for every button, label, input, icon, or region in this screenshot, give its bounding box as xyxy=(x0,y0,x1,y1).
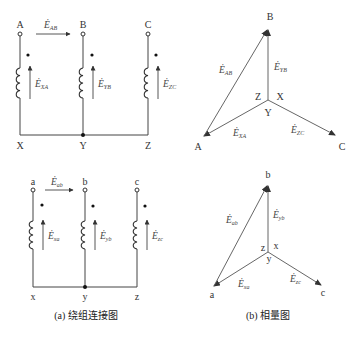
terminal-label-b-upper: B xyxy=(80,19,87,30)
emf-label-line: Ėab xyxy=(50,176,63,188)
terminal-label-c-lower: c xyxy=(135,176,140,187)
terminal-b xyxy=(81,32,85,36)
emf-label-line: ĖAB xyxy=(43,19,57,31)
vertex-label-left: A xyxy=(194,141,202,152)
polarity-dot xyxy=(26,53,29,56)
emf-label-zc: Ėzc xyxy=(289,273,301,285)
polarity-dot xyxy=(91,204,94,207)
polarity-dot xyxy=(40,203,43,206)
center-label-right: x xyxy=(274,240,279,251)
emf-label-phase-b: ĖYB xyxy=(97,78,111,90)
terminal-c xyxy=(146,32,150,36)
terminal-a xyxy=(31,188,35,192)
emf-label-ab: ĖAB xyxy=(218,64,232,76)
emf-label-phase-c: ĖZC xyxy=(162,78,177,90)
terminal-c xyxy=(135,188,139,192)
caption-phasor-diagram: (b) 相量图 xyxy=(246,309,290,322)
terminal-label-c-upper: C xyxy=(145,19,152,30)
neutral-junction-dot xyxy=(81,133,85,137)
caption-winding-connection: (a) 绕组连接图 xyxy=(54,309,118,322)
terminal-label-a-lower: a xyxy=(31,176,36,187)
neutral-label-y-upper: Y xyxy=(79,140,86,151)
vertex-label-top: B xyxy=(267,11,274,22)
center-label-left: z xyxy=(261,242,266,253)
neutral-junction-dot xyxy=(83,285,87,289)
coil-icon xyxy=(16,68,20,98)
vertex-label-right: c xyxy=(321,287,326,298)
vertex-label-left: a xyxy=(210,289,215,300)
hv-phasor-diagram: B A C Z X Y ĖAB ĖYB ĖXA ĖZC xyxy=(194,11,345,152)
polarity-dot xyxy=(143,204,146,207)
center-label-below: Y xyxy=(264,107,271,118)
terminal-a xyxy=(18,32,22,36)
emf-label-xa: ĖXA xyxy=(232,127,246,139)
neutral-label-y-lower: y xyxy=(83,291,88,302)
polarity-dot xyxy=(90,53,93,56)
neutral-label-z-lower: z xyxy=(135,291,140,302)
coil-icon xyxy=(29,221,33,249)
coil-icon xyxy=(144,68,148,98)
center-label-below: y xyxy=(267,253,272,264)
vertex-label-right: C xyxy=(339,141,346,152)
emf-label-phase-c: Ėzc xyxy=(151,230,163,242)
coil-icon xyxy=(79,68,83,98)
phasor-ab-arrow-icon xyxy=(204,30,267,136)
vertex-label-top: b xyxy=(266,169,271,180)
emf-label-yb: Ėyb xyxy=(272,209,284,221)
neutral-label-z-upper: Z xyxy=(145,140,151,151)
transformer-yy-connection-diagram: A B C ĖAB ĖXA ĖYB ĖZC xyxy=(0,0,358,338)
center-label-left: Z xyxy=(255,91,261,102)
neutral-label-x-upper: X xyxy=(16,140,24,151)
emf-label-phase-a: ĖXA xyxy=(34,78,48,90)
polarity-dot xyxy=(154,53,157,56)
terminal-label-b-lower: b xyxy=(83,176,88,187)
lv-winding-diagram: a b c Ėab Ėxa Ėyb Ėzc x y z xyxy=(29,176,163,302)
neutral-label-x-lower: x xyxy=(31,291,36,302)
phasor-ab-arrow-icon xyxy=(214,186,267,286)
lv-phasor-diagram: b a c z x y Ėab Ėyb Ėxa Ėzc xyxy=(210,169,326,300)
emf-label-yb: ĖYB xyxy=(273,61,287,73)
emf-label-xa: Ėxa xyxy=(237,278,249,290)
emf-label-zc: ĖZC xyxy=(290,124,305,136)
hv-winding-diagram: A B C ĖAB ĖXA ĖYB ĖZC xyxy=(16,19,177,151)
emf-label-phase-b: Ėyb xyxy=(99,230,111,242)
terminal-b xyxy=(83,188,87,192)
emf-label-ab: Ėab xyxy=(225,214,238,226)
emf-label-phase-a: Ėxa xyxy=(47,230,59,242)
center-label-right: X xyxy=(276,91,284,102)
coil-icon xyxy=(81,221,85,249)
coil-icon xyxy=(133,221,137,249)
terminal-label-a-upper: A xyxy=(16,19,24,30)
